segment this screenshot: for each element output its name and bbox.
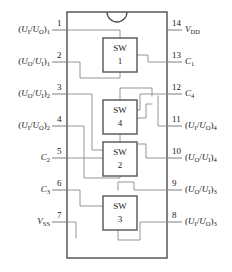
pin-label-1: (UI/UO)1 <box>0 24 50 35</box>
pin-number-13: 13 <box>172 50 181 60</box>
pin-number-14: 14 <box>172 18 181 28</box>
wire-pin11-up <box>158 96 167 126</box>
pin-label-11: (UI/UO)4 <box>185 120 217 131</box>
pin-number-5: 5 <box>57 146 62 156</box>
sw-block-2-name: SW <box>113 147 127 157</box>
pin-number-6: 6 <box>57 178 62 188</box>
wire-pin3-sw2 <box>67 94 103 150</box>
pin-label-2: (UO/UI)1 <box>0 56 50 67</box>
pin-label-7: VSS <box>0 216 50 227</box>
pin-number-4: 4 <box>57 114 62 124</box>
wire-pin10-sw2 <box>137 144 167 158</box>
wire-pin13-sw1 <box>137 55 167 62</box>
sw-block-1-name: SW <box>113 43 127 53</box>
wire-pin1-sw1 <box>67 30 120 38</box>
pin-number-8: 8 <box>172 210 177 220</box>
pin-label-3: (UO/UI)2 <box>0 88 50 99</box>
ic-pinout-diagram: SW 1 SW 4 SW 2 SW 3 1 2 3 4 5 6 7 14 13 … <box>0 0 232 272</box>
pin-label-8: (UI/UO)3 <box>185 216 217 227</box>
sw-block-3-number: 3 <box>118 214 123 224</box>
sw-block-4-number: 4 <box>118 118 123 128</box>
pin-label-4: (UI/UO)2 <box>0 120 50 131</box>
pin-number-7: 7 <box>57 210 62 220</box>
pin-label-6: C3 <box>0 184 50 195</box>
pin-number-1: 1 <box>57 18 62 28</box>
wire-pin6-sw3 <box>67 190 103 206</box>
pin-label-13: C1 <box>185 56 194 67</box>
pin-number-2: 2 <box>57 50 62 60</box>
package-notch-icon <box>107 12 127 22</box>
sw-block-3-name: SW <box>113 201 127 211</box>
wire-sw4-right-stub <box>137 104 152 118</box>
sw-block-2-number: 2 <box>118 160 123 170</box>
pin-label-10: (UO/UI)4 <box>185 152 217 163</box>
sw-block-4-name: SW <box>113 105 127 115</box>
pin-label-12: C4 <box>185 88 194 99</box>
pin-number-3: 3 <box>57 82 62 92</box>
sw-block-1-number: 1 <box>118 56 123 66</box>
pin-label-14: VDD <box>185 24 200 35</box>
wire-pin9-sw3 <box>118 182 167 190</box>
pin-label-5: C2 <box>0 152 50 163</box>
pin-number-12: 12 <box>172 82 181 92</box>
pin-label-9: (UO/UI)3 <box>185 184 217 195</box>
pin-number-9: 9 <box>172 178 177 188</box>
pin-number-10: 10 <box>172 146 181 156</box>
schematic-canvas: SW 1 SW 4 SW 2 SW 3 <box>0 0 232 272</box>
pin-number-11: 11 <box>172 114 181 124</box>
wire-pin7 <box>67 222 76 238</box>
